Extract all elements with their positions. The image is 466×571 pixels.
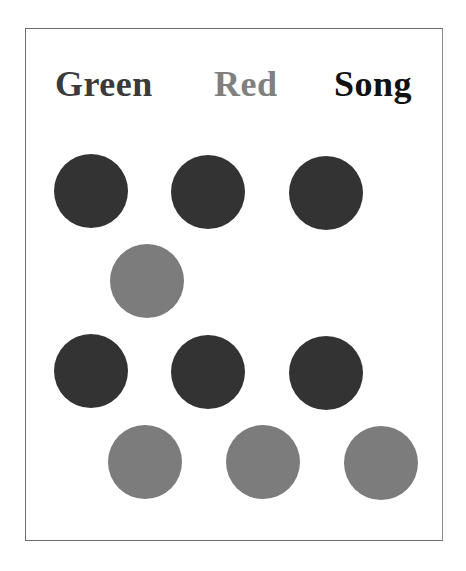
circle-dark: [289, 336, 363, 410]
word-red: Red: [214, 64, 278, 104]
word-song: Song: [334, 64, 412, 104]
word-green: Green: [55, 64, 153, 104]
circle-dark: [171, 155, 245, 229]
circle-dark: [54, 334, 128, 408]
circle-dark: [54, 154, 128, 228]
circle-gray: [108, 425, 182, 499]
circle-gray: [110, 244, 184, 318]
circle-gray: [226, 425, 300, 499]
circle-gray: [344, 426, 418, 500]
circle-dark: [289, 156, 363, 230]
circle-dark: [171, 335, 245, 409]
